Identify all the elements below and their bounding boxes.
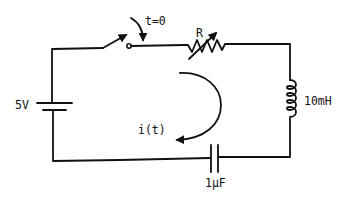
switch-timing-arrow-icon bbox=[131, 18, 143, 40]
left-branch bbox=[52, 48, 120, 161]
variable-resistor-icon bbox=[184, 33, 290, 80]
resistor-label: R bbox=[196, 26, 203, 40]
source-label: 5V bbox=[15, 98, 29, 112]
current-arrow-icon bbox=[177, 73, 221, 140]
capacitor-label: 1μF bbox=[205, 176, 226, 190]
inductor-label: 10mH bbox=[304, 94, 332, 108]
switch-icon bbox=[103, 35, 131, 48]
switch-label: t=0 bbox=[145, 14, 166, 28]
inductor-icon bbox=[218, 80, 296, 157]
top-wire bbox=[131, 45, 184, 46]
battery-icon bbox=[37, 103, 72, 110]
current-label: i(t) bbox=[138, 123, 166, 137]
circuit-diagram: 5V t=0 R 10mH 1μF i(t) bbox=[0, 0, 343, 202]
capacitor-icon bbox=[120, 145, 218, 172]
